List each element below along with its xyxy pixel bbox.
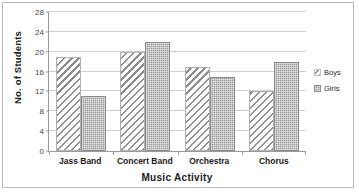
- bar-boys: [120, 52, 145, 151]
- legend-item-boys[interactable]: Boys: [314, 68, 358, 77]
- y-tick-label: 24: [35, 27, 44, 36]
- y-tick-label: 0: [40, 147, 44, 156]
- x-tick-mark: [113, 151, 114, 155]
- x-axis-title: Music Activity: [48, 172, 306, 183]
- x-tick-mark: [305, 151, 306, 155]
- x-axis-tick-labels: Jass BandConcert BandOrchestraChorus: [48, 156, 306, 166]
- legend-swatch-girls-icon: [314, 85, 321, 92]
- x-tick-mark: [49, 151, 50, 155]
- legend-label: Girls: [324, 84, 339, 93]
- bar-group: [178, 12, 242, 151]
- bar-group: [113, 12, 177, 151]
- bar-boys: [56, 57, 81, 151]
- x-tick-label: Jass Band: [48, 156, 113, 166]
- x-tick-mark: [178, 151, 179, 155]
- x-tick-label: Chorus: [242, 156, 307, 166]
- x-tick-label: Concert Band: [113, 156, 178, 166]
- bar-group: [49, 12, 113, 151]
- bar-girls: [145, 42, 170, 151]
- y-tick-label: 20: [35, 47, 44, 56]
- bar-group: [242, 12, 306, 151]
- legend-item-girls[interactable]: Girls: [314, 84, 358, 93]
- x-tick-mark: [242, 151, 243, 155]
- bar-girls: [274, 62, 299, 151]
- plot-area: 0481216202428: [48, 12, 306, 152]
- y-tick-label: 12: [35, 87, 44, 96]
- bar-girls: [81, 96, 106, 151]
- x-tick-label: Orchestra: [177, 156, 242, 166]
- bar-groups: [49, 12, 306, 151]
- y-axis-title: No. of Students: [12, 13, 23, 123]
- bar-boys: [249, 91, 274, 151]
- y-tick-label: 8: [40, 107, 44, 116]
- legend: BoysGirls: [314, 68, 358, 100]
- bar-girls: [210, 77, 235, 151]
- legend-swatch-boys-icon: [314, 69, 321, 76]
- y-tick-label: 16: [35, 67, 44, 76]
- bar-chart: No. of Students 0481216202428 Jass BandC…: [0, 0, 359, 192]
- y-tick-label: 28: [35, 8, 44, 17]
- bar-boys: [185, 67, 210, 151]
- legend-label: Boys: [324, 68, 341, 77]
- y-tick-label: 4: [40, 127, 44, 136]
